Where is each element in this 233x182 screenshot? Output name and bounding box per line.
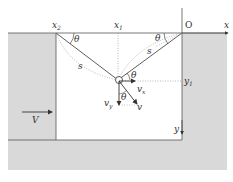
label-x-axis: x: [224, 20, 229, 30]
label-s-left: s: [78, 61, 83, 71]
wall-region: [8, 33, 227, 170]
label-theta-right: θ: [155, 33, 161, 43]
label-theta-left: θ: [74, 34, 80, 44]
label-origin: O: [185, 20, 192, 30]
label-v: v: [137, 102, 142, 112]
label-theta-particle: θ: [131, 70, 137, 80]
physics-diagram: O x x2 x1 y1 θ θ θ θ s s vx vy v V y: [0, 0, 233, 182]
label-theta-velocity: θ: [121, 92, 127, 102]
label-x2: x2: [52, 20, 61, 31]
label-s-right: s: [147, 46, 152, 56]
label-x1: x1: [114, 20, 123, 31]
label-y-axis: y: [173, 124, 180, 134]
